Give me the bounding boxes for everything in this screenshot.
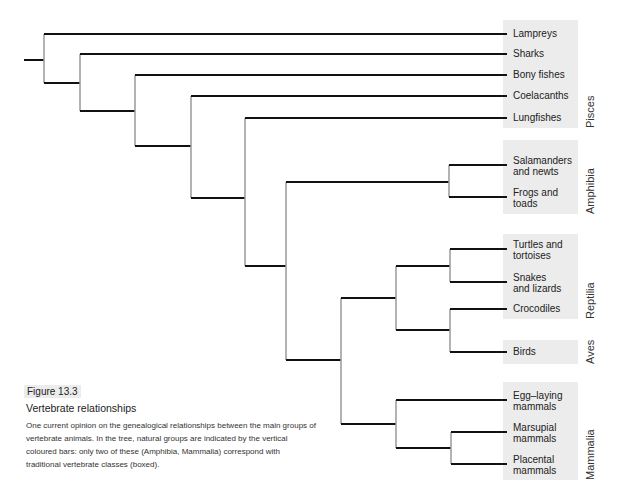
- taxon-label-line: Frogs and: [513, 187, 558, 198]
- taxon-label-line: and newts: [513, 166, 572, 177]
- taxon-label-line: Egg–laying: [513, 390, 562, 401]
- taxon-label: Egg–layingmammals: [513, 390, 562, 412]
- taxon-label-line: Lungfishes: [513, 112, 561, 123]
- taxon-label: Sharks: [513, 48, 544, 59]
- taxon-label-line: Sharks: [513, 48, 544, 59]
- taxon-label-line: tortoises: [513, 250, 563, 261]
- taxon-label: Coelacanths: [513, 90, 569, 101]
- taxon-label-line: Lampreys: [513, 28, 557, 39]
- taxon-label: Salamandersand newts: [513, 155, 572, 177]
- taxon-label-line: Birds: [513, 346, 536, 357]
- taxon-label: Bony fishes: [513, 69, 565, 80]
- taxon-label: Crocodiles: [513, 303, 560, 314]
- taxon-label-line: Coelacanths: [513, 90, 569, 101]
- group-label-reptilia: Reptilia: [584, 282, 596, 319]
- taxon-label-line: toads: [513, 198, 558, 209]
- taxon-label: Marsupialmammals: [513, 422, 556, 444]
- taxon-label-line: Marsupial: [513, 422, 556, 433]
- taxon-label: Birds: [513, 346, 536, 357]
- taxon-label: Lampreys: [513, 28, 557, 39]
- taxon-label-line: mammals: [513, 433, 556, 444]
- figure-title: Vertebrate relationships: [26, 402, 136, 414]
- taxon-label: Snakesand lizards: [513, 272, 561, 294]
- group-label-amphibia: Amphibia: [584, 168, 596, 214]
- taxon-label: Placentalmammals: [513, 454, 556, 476]
- taxon-label: Frogs andtoads: [513, 187, 558, 209]
- taxon-label-line: and lizards: [513, 283, 561, 294]
- group-label-aves: Aves: [584, 340, 596, 364]
- taxon-label-line: mammals: [513, 465, 556, 476]
- taxon-label: Lungfishes: [513, 112, 561, 123]
- taxon-label-line: Salamanders: [513, 155, 572, 166]
- group-label-mammalia: Mammalia: [584, 429, 596, 480]
- taxon-label-line: Turtles and: [513, 239, 563, 250]
- taxon-label-line: Crocodiles: [513, 303, 560, 314]
- taxon-label-line: mammals: [513, 401, 562, 412]
- taxon-label-line: Bony fishes: [513, 69, 565, 80]
- figure-caption: One current opinion on the genealogical …: [26, 419, 316, 471]
- group-label-pisces: Pisces: [584, 96, 596, 128]
- figure-number: Figure 13.3: [24, 385, 81, 398]
- taxon-label: Turtles andtortoises: [513, 239, 563, 261]
- taxon-label-line: Snakes: [513, 272, 561, 283]
- taxon-label-line: Placental: [513, 454, 556, 465]
